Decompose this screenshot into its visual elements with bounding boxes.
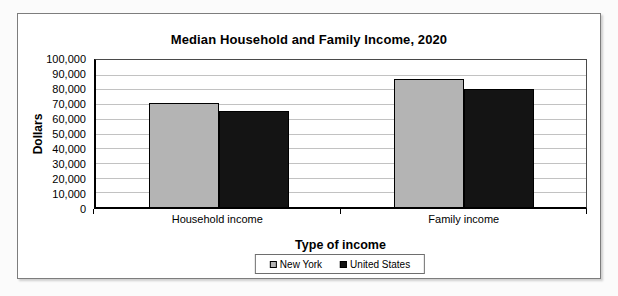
legend-item-new-york: New York [270, 259, 322, 270]
y-tick-label: 30,000 [52, 158, 86, 170]
bar-united-states-family-income [464, 89, 534, 207]
y-tick-label: 80,000 [52, 83, 86, 95]
category-label-family-income: Family income [341, 213, 588, 225]
new-york-swatch-icon [270, 261, 277, 268]
united-states-swatch-icon [340, 261, 347, 268]
y-tick-label: 90,000 [52, 68, 86, 80]
y-tick-label: 40,000 [52, 143, 86, 155]
plot-area [94, 59, 587, 209]
category-label-household-income: Household income [94, 213, 341, 225]
y-tick-label: 0 [80, 203, 86, 215]
y-axis-tick-labels: 100,00090,00080,00070,00060,00050,00040,… [18, 59, 90, 209]
y-tick-label: 60,000 [52, 113, 86, 125]
bar-groups [96, 60, 586, 207]
x-axis-category-labels: Household income Family income [94, 213, 587, 225]
bar-new-york-family-income [394, 79, 464, 207]
legend-item-united-states: United States [340, 259, 410, 270]
bar-group-household-income [96, 60, 341, 207]
legend-label-united-states: United States [350, 259, 410, 270]
legend: New York United States [255, 254, 425, 274]
y-tick-label: 50,000 [52, 128, 86, 140]
chart-frame: Median Household and Family Income, 2020… [17, 13, 601, 279]
bar-group-family-income [341, 60, 586, 207]
bar-united-states-household-income [219, 111, 289, 207]
y-tick-label: 70,000 [52, 98, 86, 110]
chart-title: Median Household and Family Income, 2020 [18, 32, 600, 47]
bar-new-york-household-income [149, 103, 219, 207]
legend-label-new-york: New York [280, 259, 322, 270]
y-tick-label: 20,000 [52, 173, 86, 185]
y-tick-label: 100,000 [46, 53, 86, 65]
x-axis-label: Type of income [94, 238, 587, 252]
y-tick-label: 10,000 [52, 188, 86, 200]
